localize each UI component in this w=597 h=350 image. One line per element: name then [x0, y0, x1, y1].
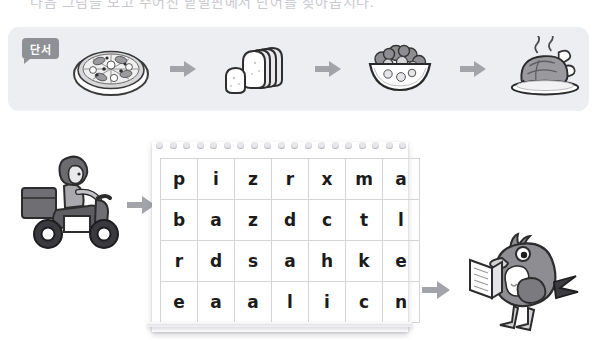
binding-hole	[210, 142, 217, 149]
bird-reading-book	[466, 232, 582, 344]
letter-cell-0-0[interactable]: p	[161, 159, 198, 200]
binding-hole	[197, 142, 204, 149]
sequence-arrow-1	[166, 61, 200, 77]
letter-cell-3-4[interactable]: i	[309, 282, 346, 323]
binding-hole	[359, 142, 366, 149]
sequence-arrow-3	[456, 61, 490, 77]
letter-grid-row: eaalicn	[161, 282, 420, 323]
letter-cell-1-3[interactable]: d	[272, 200, 309, 241]
instruction-strip: 다음 그림을 보고 주어진 낱말판에서 단어를 찾아봅시다.	[0, 0, 597, 12]
letter-cell-0-6[interactable]: a	[383, 159, 420, 200]
binding-hole	[386, 142, 393, 149]
grid-to-bird-arrow	[420, 277, 452, 303]
letter-cell-2-6[interactable]: e	[383, 241, 420, 282]
letter-cell-3-2[interactable]: a	[235, 282, 272, 323]
letter-cell-1-5[interactable]: t	[346, 200, 383, 241]
letter-cell-0-5[interactable]: m	[346, 159, 383, 200]
notepad-binding-holes	[156, 139, 406, 151]
letter-cell-2-4[interactable]: h	[309, 241, 346, 282]
binding-hole	[305, 142, 312, 149]
letter-grid-row: rdsahke	[161, 241, 420, 282]
food-sequence	[68, 27, 588, 111]
letter-cell-1-1[interactable]: a	[198, 200, 235, 241]
letter-cell-3-3[interactable]: l	[272, 282, 309, 323]
binding-hole	[399, 142, 406, 149]
letter-cell-3-0[interactable]: e	[161, 282, 198, 323]
letter-cell-3-1[interactable]: a	[198, 282, 235, 323]
binding-hole	[156, 142, 163, 149]
notepad-bottom-edge	[148, 322, 412, 327]
pizza-icon	[69, 38, 153, 100]
letter-cell-1-6[interactable]: l	[383, 200, 420, 241]
bread-icon	[214, 38, 298, 100]
sequence-arrow-2	[311, 61, 345, 77]
arrow-right-icon	[315, 61, 341, 77]
letter-cell-2-2[interactable]: s	[235, 241, 272, 282]
arrow-right-icon	[170, 61, 196, 77]
letter-cell-2-3[interactable]: a	[272, 241, 309, 282]
food-item-salad	[357, 31, 443, 107]
scooter-rider-icon	[16, 148, 132, 266]
letter-grid[interactable]: pizrxmabazdctlrdsahkeeaalicn	[160, 158, 420, 323]
letter-cell-0-3[interactable]: r	[272, 159, 309, 200]
clue-panel: 단서	[8, 27, 589, 111]
letter-grid-notepad: pizrxmabazdctlrdsahkeeaalicn	[152, 136, 408, 332]
letter-cell-1-0[interactable]: b	[161, 200, 198, 241]
clue-badge-label: 단서	[30, 41, 51, 57]
food-item-pizza	[68, 31, 154, 107]
letter-grid-row: bazdctl	[161, 200, 420, 241]
salad-bowl-icon	[358, 38, 442, 100]
letter-cell-2-0[interactable]: r	[161, 241, 198, 282]
binding-hole	[318, 142, 325, 149]
food-item-chicken	[502, 31, 588, 107]
letter-cell-3-5[interactable]: c	[346, 282, 383, 323]
clue-badge: 단서	[22, 38, 59, 59]
instruction-text: 다음 그림을 보고 주어진 낱말판에서 단어를 찾아봅시다.	[30, 0, 374, 11]
letter-cell-3-6[interactable]: n	[383, 282, 420, 323]
food-item-bread	[213, 31, 299, 107]
letter-cell-1-4[interactable]: c	[309, 200, 346, 241]
binding-hole	[251, 142, 258, 149]
binding-hole	[345, 142, 352, 149]
letter-cell-2-5[interactable]: k	[346, 241, 383, 282]
letter-grid-body: pizrxmabazdctlrdsahkeeaalicn	[161, 159, 420, 323]
arrow-right-icon	[127, 196, 155, 214]
binding-hole	[237, 142, 244, 149]
binding-hole	[183, 142, 190, 149]
letter-grid-row: pizrxma	[161, 159, 420, 200]
roast-chicken-icon	[502, 36, 588, 102]
arrow-right-icon	[422, 281, 450, 299]
letter-cell-2-1[interactable]: d	[198, 241, 235, 282]
delivery-scooter-rider	[16, 148, 132, 266]
letter-cell-0-4[interactable]: x	[309, 159, 346, 200]
binding-hole	[278, 142, 285, 149]
letter-cell-0-2[interactable]: z	[235, 159, 272, 200]
arrow-right-icon	[460, 61, 486, 77]
bird-icon	[466, 232, 582, 344]
binding-hole	[332, 142, 339, 149]
binding-hole	[291, 142, 298, 149]
book-icon	[470, 260, 502, 298]
letter-cell-0-1[interactable]: i	[198, 159, 235, 200]
letter-cell-1-2[interactable]: z	[235, 200, 272, 241]
binding-hole	[224, 142, 231, 149]
binding-hole	[264, 142, 271, 149]
binding-hole	[372, 142, 379, 149]
binding-hole	[170, 142, 177, 149]
